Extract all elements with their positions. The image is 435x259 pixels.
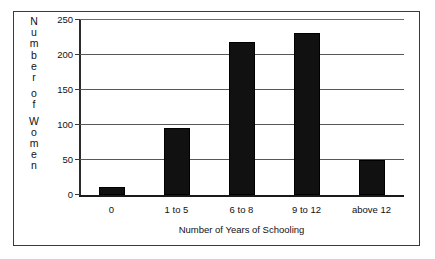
x-axis-title: Number of Years of Schooling	[79, 224, 404, 235]
y-tick-label: 150	[57, 84, 73, 95]
plot-area: 050100150200250	[79, 20, 404, 197]
x-tick-label: 1 to 5	[165, 204, 189, 215]
bar	[359, 160, 385, 195]
y-tick-label: 200	[57, 49, 73, 60]
chart-frame: NumberofWomen 050100150200250 01 to 56 t…	[13, 11, 420, 246]
y-tick-label: 50	[62, 154, 73, 165]
bar	[99, 187, 125, 195]
gridline	[79, 19, 404, 20]
x-tick-label: 9 to 12	[292, 204, 321, 215]
bar	[164, 128, 190, 195]
y-axis-title-letter: m	[30, 38, 39, 49]
y-axis-title-letter: n	[31, 160, 37, 171]
x-tick-label: 6 to 8	[230, 204, 254, 215]
x-axis-line	[79, 195, 404, 197]
y-axis-title-letter: f	[33, 99, 36, 110]
y-axis-title-letter: r	[32, 72, 36, 83]
y-tick-mark	[75, 159, 80, 160]
y-tick-mark	[75, 194, 80, 195]
y-tick-mark	[75, 54, 80, 55]
bar	[294, 33, 320, 196]
y-tick-label: 250	[57, 14, 73, 25]
x-tick-label: above 12	[352, 204, 391, 215]
y-axis-title: NumberofWomen	[22, 16, 46, 226]
y-axis-title-letter: W	[29, 116, 39, 127]
y-tick-mark	[75, 19, 80, 20]
y-tick-mark	[75, 89, 80, 90]
y-tick-mark	[75, 124, 80, 125]
y-axis-line	[79, 20, 81, 197]
y-tick-label: 0	[68, 189, 73, 200]
bar	[229, 42, 255, 195]
y-tick-label: 100	[57, 119, 73, 130]
x-axis-ticks: 01 to 56 to 89 to 12above 12	[79, 204, 404, 218]
x-tick-label: 0	[109, 204, 114, 215]
